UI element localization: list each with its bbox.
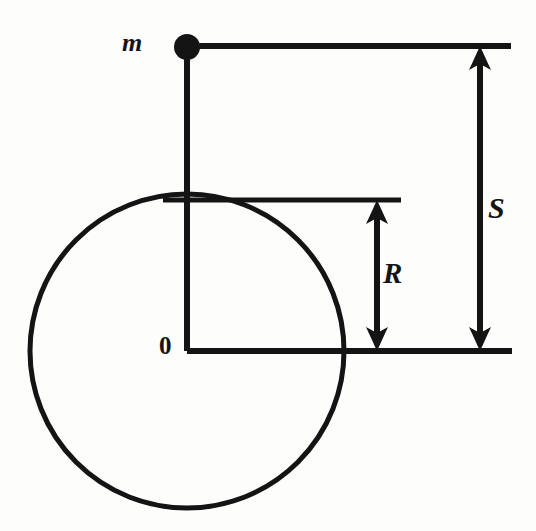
mass-label: m (122, 30, 142, 56)
physics-diagram: m S R 0 (0, 0, 536, 531)
distance-label: S (488, 193, 505, 223)
diagram-canvas (0, 0, 536, 531)
radius-label: R (383, 259, 402, 288)
origin-label: 0 (159, 333, 172, 358)
mass-point-marker (174, 34, 200, 60)
